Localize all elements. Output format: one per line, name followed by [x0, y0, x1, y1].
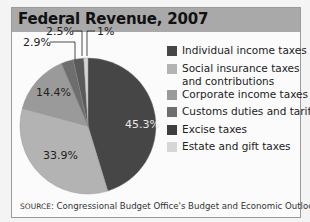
- slice-label-estate: 1%: [97, 25, 114, 38]
- slice-label-individual: 45.3%: [125, 118, 160, 131]
- legend-swatch: [167, 107, 177, 117]
- slice-label-corporate: 14.4%: [36, 86, 71, 99]
- legend-swatch: [167, 125, 177, 135]
- slice-label-social: 33.9%: [43, 149, 78, 162]
- chart-panel: Federal Revenue, 2007 45.3% 33.9% 14.4% …: [11, 7, 301, 218]
- legend-swatch: [167, 90, 177, 100]
- slice-label-excise: 2.5%: [46, 25, 74, 38]
- legend-swatch: [167, 64, 177, 74]
- source-note: SOURCE: Congressional Budget Office's Bu…: [20, 201, 310, 211]
- legend-swatch: [167, 142, 177, 152]
- legend-swatch: [167, 46, 177, 56]
